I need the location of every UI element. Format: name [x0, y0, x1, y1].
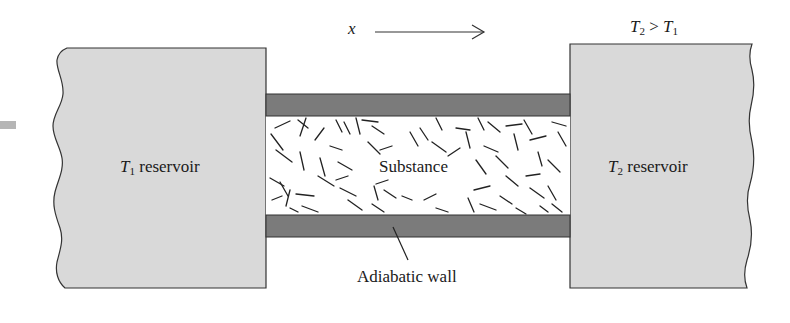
top-adiabatic-wall [266, 94, 570, 116]
side-tab-marker [0, 121, 16, 129]
left-reservoir-label: T1 reservoir [120, 158, 200, 175]
substance-label: Substance [377, 158, 450, 175]
temperature-condition-label: T2 > T1 [630, 18, 678, 35]
bottom-adiabatic-wall [266, 215, 570, 237]
x-direction-arrow [375, 25, 484, 39]
adiabatic-wall-label: Adiabatic wall [357, 268, 457, 285]
x-axis-label: x [348, 20, 356, 37]
right-reservoir-label: T2 reservoir [608, 158, 688, 175]
